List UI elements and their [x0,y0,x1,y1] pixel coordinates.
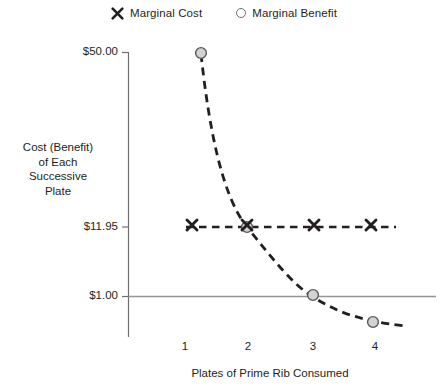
data-point-benefit-3 [308,290,319,301]
y-axis-title-line-4: Plate [4,184,112,199]
y-tick-label-1195: $11.95 [48,220,118,232]
x-tick-label-4: 4 [363,340,387,352]
y-tick-label-50: $50.00 [48,45,118,57]
y-tick-label-100: $1.00 [48,289,118,301]
data-point-cost-4 [366,220,376,230]
y-axis-title-line-3: Successive [4,169,112,184]
marginal-benefit-curve [201,54,405,326]
data-point-cost-3 [309,220,319,230]
y-axis-title-line-1: Cost (Benefit) [4,140,112,155]
x-tick-label-1: 1 [173,340,197,352]
chart-page: Marginal Cost Marginal Benefit [0,0,448,391]
y-axis-title: Cost (Benefit) of Each Successive Plate [4,140,112,198]
data-point-benefit-4 [368,317,379,328]
y-axis-title-line-2: of Each [4,155,112,170]
data-point-benefit-1 [196,48,207,59]
x-tick-label-3: 3 [301,340,325,352]
x-tick-label-2: 2 [236,340,260,352]
data-point-cost-1 [187,220,197,230]
x-axis-title: Plates of Prime Rib Consumed [120,367,420,379]
